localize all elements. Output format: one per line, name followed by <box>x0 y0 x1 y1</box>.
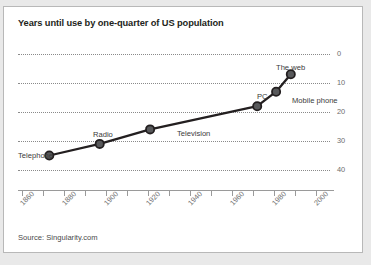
point-label-radio: Radio <box>93 130 113 139</box>
chart-card: Years until use by one-quarter of US pop… <box>3 6 363 253</box>
point-label-telephone: Telephone <box>18 151 53 160</box>
point-label-the-web: The web <box>276 63 305 72</box>
plot-area: 0 10 20 30 40 1860 1880 <box>4 7 364 254</box>
data-point-pc <box>253 102 261 110</box>
chart-page: Years until use by one-quarter of US pop… <box>0 0 371 265</box>
series-polyline <box>49 74 290 155</box>
point-label-television: Television <box>177 129 210 138</box>
point-label-pc: PC <box>257 92 268 101</box>
point-label-mobile-phone: Mobile phone <box>292 96 338 105</box>
source-note: Source: Singularity.com <box>18 233 98 242</box>
data-point-mobile-phone <box>272 88 280 96</box>
series-markers <box>45 70 295 159</box>
data-point-television <box>146 125 154 133</box>
data-point-radio <box>96 140 104 148</box>
